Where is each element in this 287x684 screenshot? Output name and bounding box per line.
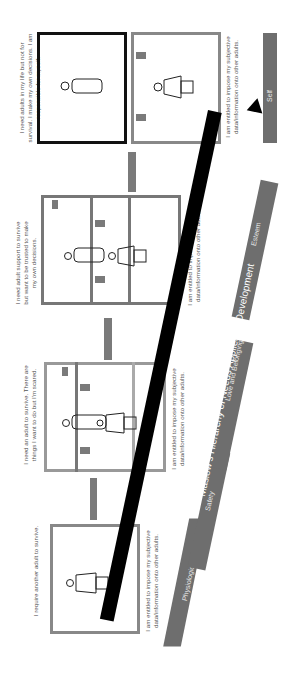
banner-arrowhead-icon — [247, 96, 266, 113]
adult-figure-icon — [60, 72, 106, 104]
level-self — [263, 33, 277, 143]
pressure-arrow-icon — [52, 200, 58, 209]
pressure-arrow-icon — [136, 114, 146, 121]
adult-and-child-figures-icon — [64, 243, 160, 273]
level-self-label: Self — [266, 90, 273, 102]
stage-2-need: I need an adult to survive. There are th… — [22, 360, 38, 470]
stage-1-entitlement: I am entitled to impose my subjective da… — [144, 526, 160, 636]
diagram: I need adults in my life but not for sur… — [0, 0, 287, 684]
progression-arrow-icon — [90, 478, 97, 520]
pressure-arrow-icon — [95, 220, 105, 227]
pressure-arrow-icon — [62, 367, 68, 376]
child-figure-icon — [153, 72, 199, 106]
progression-arrow-icon — [104, 318, 112, 360]
stage-3-need: I need adult support to survive but want… — [14, 221, 38, 305]
pressure-arrow-icon — [136, 52, 146, 59]
pressure-arrow-icon — [80, 384, 90, 391]
stage-2-entitlement: I am entitled to impose my subjective da… — [170, 364, 186, 474]
stage-4-entitlement: I am entitled to impose my subjective da… — [224, 32, 240, 142]
pressure-arrow-icon — [95, 276, 105, 283]
adult-and-child-figures-icon — [62, 410, 146, 440]
stage-1-need: I require another adult to survive. — [32, 516, 40, 626]
pressure-arrow-icon — [80, 447, 90, 454]
progression-arrow-icon — [128, 152, 136, 192]
